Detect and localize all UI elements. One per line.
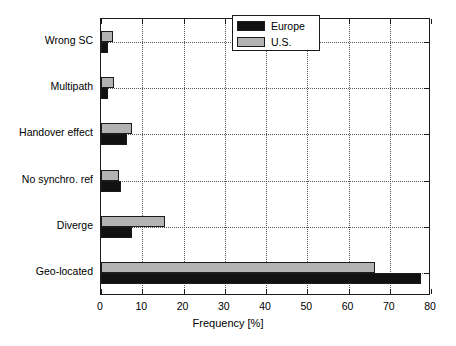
x-tick-label-10: 10 <box>121 300 161 312</box>
legend-label-europe: Europe <box>271 21 305 31</box>
bar-europe-3 <box>101 181 121 192</box>
legend-label-us: U.S. <box>271 37 291 47</box>
x-tick-label-80: 80 <box>410 300 450 312</box>
y-category-label-2: Handover effect <box>0 126 93 138</box>
y-category-label-3: No synchro. ref <box>0 173 93 185</box>
bar-europe-2 <box>101 134 127 145</box>
y-tick-right-1 <box>424 88 429 89</box>
y-tick-4 <box>101 227 106 228</box>
y-tick-2 <box>101 134 106 135</box>
y-tick-right-0 <box>424 42 429 43</box>
bar-europe-1 <box>101 88 108 99</box>
gridline-x-40 <box>266 19 267 294</box>
x-tick-10 <box>142 289 143 294</box>
x-tick-top-10 <box>142 19 143 24</box>
x-tick-label-40: 40 <box>245 300 285 312</box>
gridline-y-2 <box>101 134 429 135</box>
x-tick-50 <box>307 289 308 294</box>
gridline-y-4 <box>101 227 429 228</box>
y-tick-right-5 <box>424 273 429 274</box>
gridline-x-60 <box>349 19 350 294</box>
bar-europe-4 <box>101 227 132 238</box>
bar-us-4 <box>101 216 165 227</box>
chart-legend: Europe U.S. <box>232 15 320 51</box>
y-tick-right-4 <box>424 227 429 228</box>
y-tick-1 <box>101 88 106 89</box>
legend-item-europe: Europe <box>237 19 315 33</box>
y-category-label-0: Wrong SC <box>0 34 93 46</box>
x-tick-70 <box>390 289 391 294</box>
y-category-label-5: Geo-located <box>0 265 93 277</box>
y-category-label-4: Diverge <box>0 219 93 231</box>
legend-item-us: U.S. <box>237 35 315 49</box>
x-tick-label-60: 60 <box>328 300 368 312</box>
gridline-y-1 <box>101 88 429 89</box>
x-axis-title: Frequency [%] <box>0 317 456 329</box>
x-tick-60 <box>349 289 350 294</box>
gridline-x-50 <box>307 19 308 294</box>
legend-swatch-us <box>237 37 265 47</box>
x-tick-label-20: 20 <box>163 300 203 312</box>
x-tick-top-20 <box>184 19 185 24</box>
gridline-x-30 <box>225 19 226 294</box>
bar-us-1 <box>101 77 114 88</box>
x-tick-20 <box>184 289 185 294</box>
bar-europe-5 <box>101 273 421 284</box>
x-tick-0 <box>101 289 102 294</box>
x-tick-30 <box>225 289 226 294</box>
x-tick-80 <box>431 289 432 294</box>
bar-us-3 <box>101 170 119 181</box>
y-category-label-1: Multipath <box>0 80 93 92</box>
y-tick-5 <box>101 273 106 274</box>
gridline-x-70 <box>390 19 391 294</box>
y-tick-right-3 <box>424 181 429 182</box>
bar-chart-figure: 01020304050607080 Wrong SCMultipathHando… <box>0 0 456 346</box>
x-tick-label-30: 30 <box>204 300 244 312</box>
x-tick-top-80 <box>431 19 432 24</box>
x-tick-label-0: 0 <box>80 300 120 312</box>
x-tick-top-30 <box>225 19 226 24</box>
y-tick-3 <box>101 181 106 182</box>
gridline-x-10 <box>142 19 143 294</box>
legend-swatch-europe <box>237 21 265 31</box>
x-tick-40 <box>266 289 267 294</box>
bar-us-5 <box>101 262 375 273</box>
bar-us-2 <box>101 123 132 134</box>
bar-us-0 <box>101 31 113 42</box>
plot-area <box>100 18 430 295</box>
y-tick-right-2 <box>424 134 429 135</box>
y-tick-0 <box>101 42 106 43</box>
x-tick-top-70 <box>390 19 391 24</box>
x-tick-top-60 <box>349 19 350 24</box>
x-tick-label-70: 70 <box>369 300 409 312</box>
gridline-y-3 <box>101 181 429 182</box>
x-tick-label-50: 50 <box>286 300 326 312</box>
x-tick-top-0 <box>101 19 102 24</box>
bar-europe-0 <box>101 42 108 53</box>
gridline-x-20 <box>184 19 185 294</box>
